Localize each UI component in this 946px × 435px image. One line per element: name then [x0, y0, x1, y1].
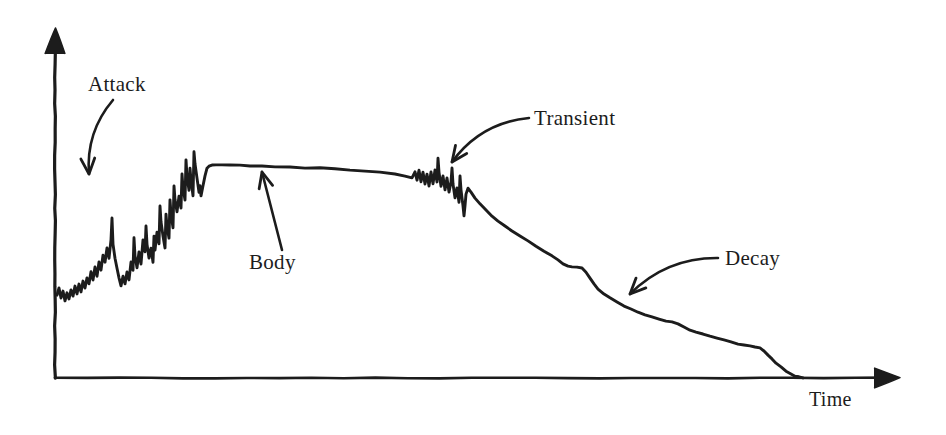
annotation-label-decay: Decay — [725, 248, 780, 269]
x-axis-line — [55, 378, 888, 379]
envelope-canvas — [0, 0, 946, 435]
annotation-arrow-transient — [452, 118, 529, 162]
annotation-arrow-body — [259, 172, 282, 250]
y-axis-line — [55, 38, 56, 379]
x-axis-label: Time — [809, 389, 852, 409]
amplitude-envelope-curve — [57, 152, 803, 378]
annotation-arrow-attack — [81, 100, 113, 174]
y-axis-arrowhead — [45, 28, 65, 54]
annotation-arrow-decay — [630, 258, 718, 294]
envelope-path — [57, 152, 803, 378]
annotation-label-transient: Transient — [534, 108, 615, 129]
annotation-label-attack: Attack — [88, 74, 146, 95]
envelope-diagram: Attack Transient Body Decay Time — [0, 0, 946, 435]
annotation-arrows — [81, 100, 718, 294]
x-axis-arrowhead — [874, 368, 900, 388]
annotation-label-body: Body — [249, 252, 296, 273]
